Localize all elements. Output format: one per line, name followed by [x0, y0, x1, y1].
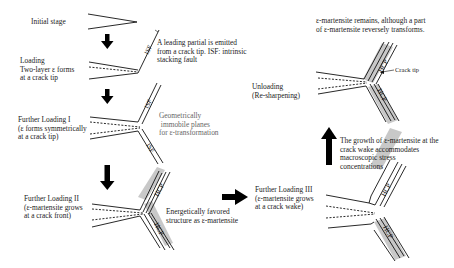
stage-label-unloading: Unloading (Re-sharpening): [252, 83, 300, 100]
note-immobile-planes: Geometrically immobile planes for ε-tran…: [159, 112, 219, 138]
crack-tip-martensite-diagram: ISF ISF ISF: [0, 0, 454, 268]
isf-label-upper: ISF: [143, 98, 154, 110]
arrow-loading-to-further1: [101, 89, 114, 104]
note-martensite-remains: ε-martensite remains, although a part of…: [316, 17, 426, 34]
isf-label-lower: ISF: [145, 142, 156, 154]
arrow-further3-to-unloading: [321, 127, 337, 165]
stage-label-further-loading-2: Further Loading II (ε-martensite grows a…: [24, 195, 83, 221]
note-leading-partial: A leading partial is emitted from a crac…: [157, 39, 247, 65]
stage-label-further-loading-1: Further Loading I (ε forms symmetrically…: [18, 116, 87, 142]
stage-label-loading: Loading Two-layer ε forms at a crack tip: [20, 57, 74, 83]
arrow-initial-to-loading: [101, 34, 114, 49]
initial-crack: [88, 14, 137, 29]
unloading-crack: [316, 42, 399, 124]
note-crack-tip: Crack tip: [395, 66, 419, 75]
stage-label-further-loading-3: Further Loading III (ε-martensite grows …: [255, 186, 314, 212]
further-loading-2-crack: [92, 167, 174, 250]
note-energetically-favored: Energetically favored structure as ε-mar…: [166, 208, 238, 225]
stage-label-initial: Initial stage: [31, 18, 66, 27]
arrow-further1-to-further2: [100, 165, 115, 190]
arrow-further2-to-further3: [222, 189, 248, 205]
note-wake-growth: The growth of ε-martensite at the crack …: [340, 137, 439, 171]
